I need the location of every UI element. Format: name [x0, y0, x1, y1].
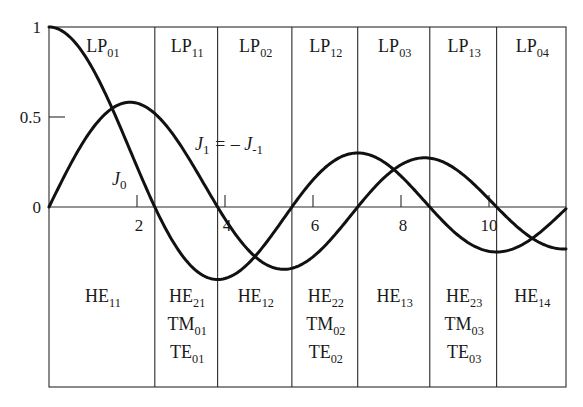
y-tick-label: 0.5 [20, 108, 41, 127]
he-mode-label-13: HE13 [377, 286, 413, 310]
tm-mode-label-03: TM03 [445, 314, 484, 338]
he-mode-label-22: HE22 [308, 286, 344, 310]
lp-mode-label-02: LP02 [239, 36, 272, 60]
tm-mode-label-02: TM02 [306, 314, 345, 338]
lp-mode-label-13: LP13 [448, 36, 481, 60]
he-mode-label-23: HE23 [446, 286, 482, 310]
lp-mode-label-04: LP04 [516, 36, 549, 60]
x-tick-label: 8 [399, 216, 408, 235]
lp-mode-label-01: LP01 [86, 36, 119, 60]
te-mode-label-01: TE01 [170, 342, 204, 366]
bessel-curves [49, 27, 566, 280]
tm-mode-label-01: TM01 [168, 314, 207, 338]
lp-mode-label-03: LP03 [378, 36, 411, 60]
he-mode-label-12: HE12 [238, 286, 274, 310]
y-tick-label: 0 [33, 198, 42, 217]
j0-curve-label: J0 [112, 169, 127, 192]
bessel-mode-chart: 24681000.51 LP01LP11LP02LP12LP03LP13LP04… [0, 0, 583, 407]
x-tick-label: 2 [135, 216, 144, 235]
j1-curve-label: J1 = – J-1 [195, 134, 263, 157]
y-tick-label: 1 [33, 18, 42, 37]
he-mode-label-14: HE14 [514, 286, 550, 310]
x-tick-label: 10 [481, 216, 498, 235]
x-tick-label: 6 [311, 216, 320, 235]
lp-mode-label-12: LP12 [309, 36, 342, 60]
te-mode-label-03: TE03 [447, 342, 481, 366]
curve-bessel_j0 [49, 27, 566, 280]
he-mode-label-21: HE21 [169, 286, 205, 310]
lp-mode-label-11: LP11 [171, 36, 204, 60]
te-mode-label-02: TE02 [309, 342, 343, 366]
he-mode-label-11: HE11 [85, 286, 121, 310]
